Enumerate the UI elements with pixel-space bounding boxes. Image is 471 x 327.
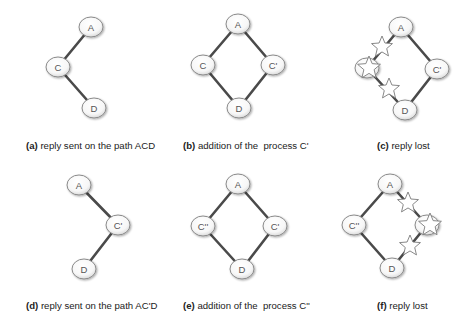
diagram-canvas: ACDACC'DAC'DAC'DAC''C'DAC''D: [0, 0, 471, 327]
node-label: A: [76, 180, 83, 191]
process-node-D: D: [380, 258, 404, 278]
node-label: C': [269, 60, 278, 71]
process-node-Cp: C': [263, 216, 287, 236]
caption-text: reply sent on the path ACD: [38, 140, 155, 151]
caption-a: (a) reply sent on the path ACD: [26, 140, 155, 151]
lost-message-star-icon: [372, 36, 393, 56]
process-node-C: C: [46, 57, 70, 77]
node-label: A: [235, 179, 242, 190]
process-node-A: A: [226, 174, 250, 194]
process-node-Cp: C': [261, 55, 285, 75]
node-label: D: [239, 264, 246, 275]
caption-c: (c) reply lost: [377, 140, 430, 151]
panel-e: AC''C'D: [191, 174, 287, 279]
caption-f: (f) reply lost: [377, 300, 428, 311]
caption-d: (d) reply sent on the path AC'D: [26, 300, 157, 311]
caption-tag: (b): [183, 140, 195, 151]
process-node-D: D: [227, 98, 251, 118]
node-label: A: [387, 179, 394, 190]
process-node-Cpp: C'': [191, 216, 215, 236]
process-node-D: D: [230, 259, 254, 279]
caption-e: (e) addition of the process C'': [183, 300, 310, 311]
panel-c: AC'D: [355, 17, 449, 120]
caption-b: (b) addition of the process C': [183, 140, 309, 151]
node-label: A: [235, 19, 242, 30]
process-node-A: A: [79, 17, 103, 37]
caption-text: addition of the process C': [195, 140, 308, 151]
caption-text: addition of the process C'': [195, 300, 310, 311]
process-node-A: A: [226, 14, 250, 34]
process-node-Cpp: C'': [342, 215, 366, 235]
process-node-A: A: [67, 175, 91, 195]
node-label: D: [402, 105, 409, 116]
process-node-D: D: [72, 259, 96, 279]
node-label: D: [236, 103, 243, 114]
node-label: C: [200, 60, 207, 71]
node-label: D: [91, 103, 98, 114]
node-label: C': [271, 221, 280, 232]
process-node-Cp: C': [425, 59, 449, 79]
lost-message-star-icon: [379, 78, 400, 98]
caption-text: reply sent on the path AC'D: [38, 300, 157, 311]
node-label: D: [81, 264, 88, 275]
process-node-C: C: [191, 55, 215, 75]
caption-text: reply lost: [389, 140, 430, 151]
process-node-D: D: [393, 100, 417, 120]
node-label: A: [398, 22, 405, 33]
caption-tag: (e): [183, 300, 195, 311]
caption-tag: (f): [377, 300, 387, 311]
node-label: A: [88, 22, 95, 33]
panel-b: ACC'D: [191, 14, 285, 118]
panel-f: AC''D: [342, 174, 441, 278]
panel-a: ACD: [46, 17, 106, 118]
caption-tag: (d): [26, 300, 38, 311]
caption-text: reply lost: [387, 300, 428, 311]
panel-d: AC'D: [67, 175, 130, 279]
process-node-D: D: [82, 98, 106, 118]
node-label: C': [114, 220, 123, 231]
caption-tag: (a): [26, 140, 38, 151]
node-label: C'': [349, 220, 360, 231]
node-label: D: [389, 263, 396, 274]
process-node-Cp: C': [106, 215, 130, 235]
process-node-A: A: [389, 17, 413, 37]
process-node-A: A: [378, 174, 402, 194]
node-label: C: [55, 62, 62, 73]
node-label: C': [433, 64, 442, 75]
caption-tag: (c): [377, 140, 389, 151]
node-label: C'': [198, 221, 209, 232]
